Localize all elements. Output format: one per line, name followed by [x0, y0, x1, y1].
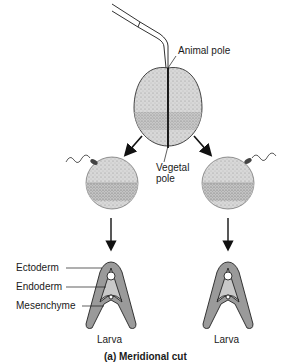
vegetal-pole-label-line2: pole [156, 173, 175, 184]
larva-right-label: Larva [214, 334, 239, 345]
arrow-left-icon [128, 136, 142, 152]
animal-pole-pointer [168, 56, 176, 68]
animal-pole-label: Animal pole [178, 45, 230, 56]
sperm-left-icon [66, 155, 99, 166]
larva-left-label: Larva [97, 334, 122, 345]
arrow-right-icon [194, 136, 208, 152]
vegetal-pole-pointer [164, 146, 168, 162]
endoderm-label: Endoderm [16, 281, 62, 292]
left-larva [86, 262, 136, 329]
vegetal-pole-label-line1: Vegetal [156, 162, 189, 173]
micropipette-icon [112, 4, 168, 68]
right-larva [203, 262, 253, 329]
right-half-embryo [202, 157, 254, 209]
figure-caption: (a) Meridional cut [104, 351, 187, 362]
sperm-right-icon [243, 153, 276, 165]
mesenchyme-label: Mesenchyme [16, 300, 75, 311]
ectoderm-label: Ectoderm [16, 262, 59, 273]
left-half-embryo [86, 157, 138, 209]
egg-cell [134, 67, 202, 148]
